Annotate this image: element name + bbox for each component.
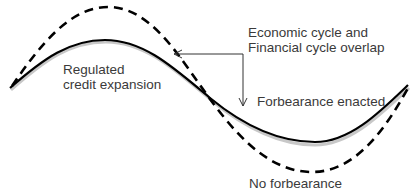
regulated-label-line2: credit expansion	[63, 77, 161, 92]
no-forbearance-text: No forbearance	[249, 176, 342, 191]
overlap-label-line2: Financial cycle overlap	[248, 40, 385, 55]
regulated-label: Regulated credit expansion	[63, 62, 161, 92]
no-forbearance-label: No forbearance	[249, 176, 342, 191]
forbearance-enacted-label: Forbearance enacted	[257, 94, 385, 109]
overlap-label: Economic cycle and Financial cycle overl…	[248, 25, 385, 55]
regulated-label-line1: Regulated	[63, 62, 161, 77]
forbearance-enacted-text: Forbearance enacted	[257, 94, 385, 109]
overlap-label-line1: Economic cycle and	[248, 25, 385, 40]
